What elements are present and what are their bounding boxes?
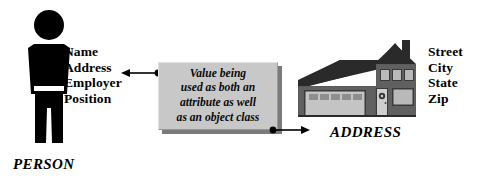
- address-attribute-zip: Zip: [428, 91, 463, 107]
- person-attribute-name: Name: [64, 44, 122, 60]
- address-attribute-street: Street: [428, 44, 463, 60]
- person-attribute-address: Address: [64, 60, 122, 76]
- address-attribute-state: State: [428, 75, 463, 91]
- person-attribute-employer: Employer: [64, 75, 122, 91]
- house-icon: [296, 36, 420, 120]
- address-attribute-city: City: [428, 60, 463, 76]
- person-class-caption: PERSON: [13, 156, 75, 173]
- person-attribute-list: Name Address Employer Position: [64, 44, 122, 106]
- annotation-line-3: attribute as well: [177, 96, 260, 111]
- arrow-to-address-object-class-icon: [268, 121, 316, 139]
- annotation-line-4: as an object class: [177, 111, 260, 126]
- diagram-canvas: Name Address Employer Position PERSON Va…: [0, 0, 478, 182]
- annotation-line-1: Value being: [177, 67, 260, 82]
- annotation-line-2: used as both an: [177, 81, 260, 96]
- annotation-text: Value being used as both an attribute as…: [175, 67, 262, 125]
- arrow-to-person-address-attribute-icon: [118, 64, 162, 82]
- annotation-box: Value being used as both an attribute as…: [158, 62, 278, 130]
- address-class-caption: ADDRESS: [330, 124, 401, 141]
- person-attribute-position: Position: [64, 91, 122, 107]
- address-attribute-list: Street City State Zip: [428, 44, 463, 106]
